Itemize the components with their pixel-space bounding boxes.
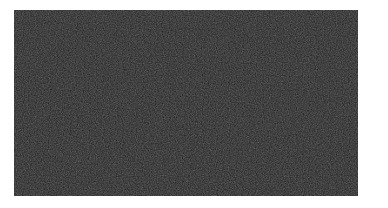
panel-noise-texture [14,10,358,196]
dark-optics-panel [14,10,358,196]
optics-figure [0,0,388,208]
lens-ray-diagram [0,0,388,208]
